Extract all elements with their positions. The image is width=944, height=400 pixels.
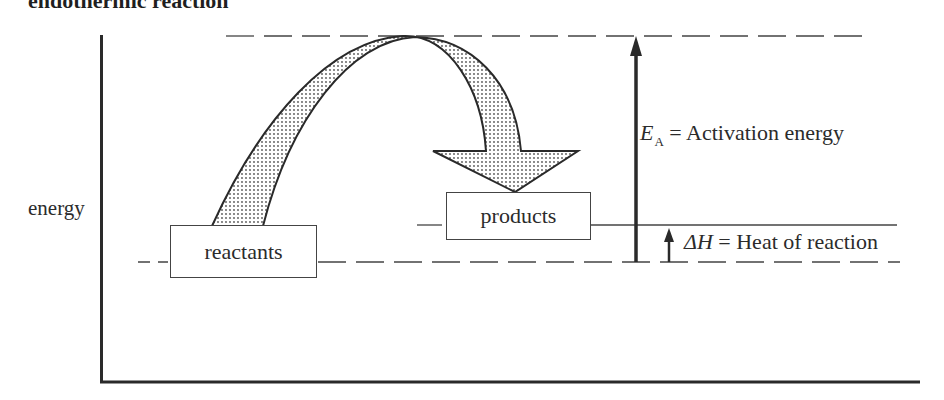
heat-symbol: ΔH: [684, 229, 713, 254]
activation-equals: =: [669, 120, 681, 145]
heat-of-reaction-arrowhead-icon: [664, 228, 674, 242]
heat-of-reaction-annotation: ΔH = Heat of reaction: [684, 229, 878, 255]
heat-text: Heat of reaction: [736, 229, 878, 254]
products-label: products: [481, 203, 557, 229]
activation-subscript: A: [654, 134, 663, 149]
reactants-box: reactants: [170, 225, 317, 278]
reactants-label: reactants: [204, 239, 282, 265]
activation-symbol: E: [640, 120, 653, 145]
activation-energy-annotation: EA = Activation energy: [640, 120, 844, 146]
activation-text: Activation energy: [686, 120, 844, 145]
activation-energy-arrowhead-icon: [630, 36, 642, 56]
products-box: products: [446, 192, 591, 240]
energy-diagram: endothermic reaction energy reactants: [0, 0, 944, 400]
heat-equals: =: [718, 229, 730, 254]
y-axis-label: energy: [28, 196, 85, 221]
